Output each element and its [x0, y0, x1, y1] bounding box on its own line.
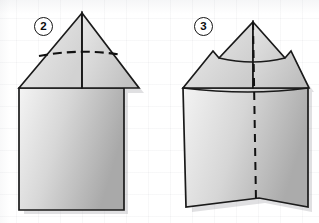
diagram-canvas: 2 3 — [0, 0, 319, 223]
step3-right-wing — [253, 22, 309, 88]
step3-left-wing — [183, 22, 253, 88]
step2-body-panel — [19, 88, 124, 210]
step3-body-panel — [183, 88, 308, 207]
step-number-badge-2: 2 — [34, 17, 53, 36]
step2-right-wing — [82, 13, 139, 88]
step-number-badge-3: 3 — [194, 17, 213, 36]
